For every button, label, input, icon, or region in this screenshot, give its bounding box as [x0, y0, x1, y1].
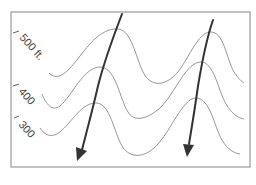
map-frame [11, 12, 250, 167]
contour-diagram: 500 ft. 400 300 [0, 0, 256, 185]
contour-map-svg: 500 ft. 400 300 [0, 0, 256, 185]
